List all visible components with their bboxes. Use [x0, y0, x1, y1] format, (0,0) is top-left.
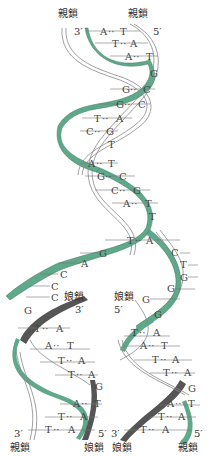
bottom-right-5prime: 5′ [194, 428, 203, 439]
svg-text:C: C [119, 171, 127, 182]
bottom-left-parent-label: 親鎖 [10, 441, 30, 453]
svg-text:··: ·· [108, 26, 114, 37]
svg-text:··: ·· [105, 171, 111, 182]
svg-text:··: ·· [119, 185, 125, 196]
svg-text:T: T [94, 113, 101, 124]
base-pair: T··A [95, 38, 148, 49]
svg-text:A: A [161, 424, 170, 435]
svg-text:T: T [146, 51, 153, 62]
svg-text:T: T [45, 424, 52, 435]
top-left-strand-label: 親鎖 [58, 7, 78, 19]
svg-text:··: ·· [160, 354, 166, 365]
svg-text:G: G [188, 383, 196, 394]
bottom-left-daughter-label: 娘鎖 [84, 441, 104, 453]
bottom-left-3prime: 3′ [14, 428, 23, 439]
top-right-strand-label: 親鎖 [128, 7, 148, 19]
svg-text:G: G [122, 84, 130, 95]
svg-text:A: A [44, 340, 53, 351]
svg-text:··: ·· [81, 398, 87, 409]
svg-text:C: C [86, 126, 94, 137]
base: T [149, 211, 156, 222]
svg-text:C: C [111, 185, 119, 196]
svg-text:··: ·· [139, 327, 145, 338]
svg-text:A: A [87, 158, 96, 169]
svg-text:A: A [115, 113, 124, 124]
svg-text:··: ·· [171, 367, 177, 378]
svg-text:T: T [140, 424, 147, 435]
base-pair: A··T [30, 340, 90, 351]
svg-text:T: T [34, 323, 41, 334]
svg-text:C: C [171, 247, 179, 258]
svg-text:··: ·· [133, 51, 139, 62]
svg-text:T: T [68, 369, 75, 380]
svg-text:··: ·· [76, 369, 82, 380]
strand-outline [16, 350, 33, 440]
base-pair: T··A [150, 367, 195, 378]
svg-text:C: C [60, 269, 68, 280]
svg-text:T: T [161, 340, 168, 351]
svg-text:C: C [138, 99, 146, 110]
svg-text:A: A [55, 323, 64, 334]
svg-text:G: G [142, 294, 150, 305]
top-left-end-label: 3′ [74, 26, 83, 37]
svg-text:A: A [171, 354, 180, 365]
base: T [108, 139, 115, 150]
svg-text:A: A [99, 26, 108, 37]
svg-text:A: A [77, 355, 86, 366]
svg-text:A: A [80, 258, 89, 269]
right-daughter-helix [118, 300, 193, 445]
svg-text:T: T [131, 327, 138, 338]
svg-text:A: A [145, 235, 154, 246]
svg-text:A: A [139, 340, 148, 351]
svg-text:G: G [154, 309, 162, 320]
svg-text:T: T [127, 235, 134, 246]
svg-text:A: A [152, 327, 161, 338]
svg-text:··: ·· [135, 235, 141, 246]
left-daughter-end: 3′ [75, 304, 84, 315]
svg-text:C: C [51, 292, 59, 303]
svg-text:G: G [116, 99, 124, 110]
right-daughter-end: 5′ [114, 304, 123, 315]
svg-text:··: ·· [42, 323, 48, 334]
svg-text:T: T [158, 411, 165, 422]
svg-text:G: G [24, 305, 32, 316]
svg-text:T: T [188, 398, 195, 409]
svg-text:··: ·· [166, 411, 172, 422]
base-pair: C··G [80, 126, 118, 137]
left-daughter-label: 娘鎖 [64, 290, 84, 302]
svg-text:G: G [97, 171, 105, 182]
svg-text:··: ·· [53, 340, 59, 351]
svg-text:T: T [108, 158, 115, 169]
base-pair: A··T [112, 198, 158, 209]
base-pair: T··A [55, 369, 98, 380]
top-right-end-label: 5′ [153, 26, 162, 37]
svg-text:··: ·· [175, 398, 181, 409]
svg-text:A: A [67, 424, 76, 435]
svg-text:··: ·· [120, 38, 126, 49]
svg-text:C: C [51, 281, 59, 292]
svg-text:G: G [99, 248, 107, 259]
strand-outline [20, 352, 37, 440]
svg-text:G: G [167, 283, 175, 294]
dna-replication-diagram: 親鎖 親鎖 3′ 5′ A··T T··A A··T G G··C G··C T… [0, 0, 210, 456]
svg-text:··: ·· [53, 424, 59, 435]
base: G [150, 68, 158, 79]
base-pair: T··A [134, 354, 192, 365]
svg-text:A: A [177, 411, 186, 422]
bottom-right-3prime: 3′ [111, 428, 120, 439]
svg-text:A: A [122, 198, 131, 209]
svg-text:A: A [72, 398, 81, 409]
base-pair: T··A [40, 355, 95, 366]
svg-text:T: T [163, 367, 170, 378]
svg-text:T: T [152, 354, 159, 365]
svg-text:T: T [145, 198, 152, 209]
right-daughter-label: 娘鎖 [114, 290, 134, 302]
svg-text:T: T [94, 398, 101, 409]
svg-text:··: ·· [96, 158, 102, 169]
base-pair: G··C [110, 84, 155, 95]
svg-text:··: ·· [66, 355, 72, 366]
svg-text:T: T [180, 259, 187, 270]
svg-text:··: ·· [66, 411, 72, 422]
svg-text:··: ·· [148, 340, 154, 351]
base-pair: A··T [86, 26, 140, 37]
